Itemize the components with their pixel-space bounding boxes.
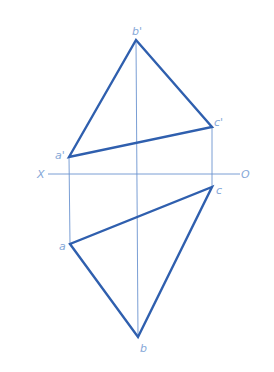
front-view-triangle (69, 40, 212, 157)
projection-line-b (136, 40, 138, 337)
label-x: X (36, 168, 45, 181)
label-b: b (140, 342, 147, 355)
label-b-prime: b' (132, 25, 142, 38)
projection-line-a (69, 157, 70, 244)
top-view-triangle (70, 187, 212, 337)
label-a: a (59, 240, 66, 253)
label-c: c (216, 184, 222, 197)
label-a-prime: a' (55, 149, 65, 162)
label-o: O (241, 168, 250, 181)
label-c-prime: c' (214, 116, 223, 129)
projection-diagram: b' c' a' X O c a b (0, 0, 274, 372)
